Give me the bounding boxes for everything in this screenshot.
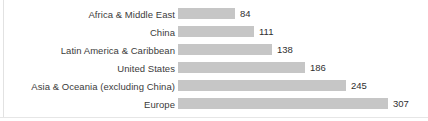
- bar-row: Africa & Middle East 84: [0, 8, 428, 26]
- category-label: Latin America & Caribbean: [61, 44, 175, 57]
- bar-value-label: 186: [310, 62, 326, 75]
- category-label: Europe: [144, 98, 175, 111]
- bar-track: 84: [178, 8, 235, 21]
- bar-value-label: 138: [277, 44, 293, 57]
- bar-fill: [178, 44, 272, 55]
- bar-track: 245: [178, 80, 346, 93]
- bar-value-label: 245: [351, 80, 367, 93]
- category-label: China: [150, 26, 175, 39]
- bar-value-label: 111: [259, 26, 273, 39]
- bar-fill: [178, 26, 254, 37]
- bar-chart: Africa & Middle East 84 China 111 Latin …: [0, 0, 428, 121]
- bar-track: 138: [178, 44, 272, 57]
- bottom-frame-rule: [0, 117, 428, 118]
- bar-value-label: 84: [240, 8, 251, 21]
- bar-fill: [178, 98, 388, 109]
- bar-row: China 111: [0, 26, 428, 44]
- bar-fill: [178, 62, 305, 73]
- bar-row: Europe 307: [0, 98, 428, 116]
- category-label: United States: [117, 62, 175, 75]
- category-label: Asia & Oceania (excluding China): [31, 80, 175, 93]
- bar-track: 307: [178, 98, 388, 111]
- bar-fill: [178, 80, 346, 91]
- bar-value-label: 307: [393, 98, 409, 111]
- bar-track: 186: [178, 62, 305, 75]
- plot-area: Africa & Middle East 84 China 111 Latin …: [0, 8, 428, 116]
- bar-row: United States 186: [0, 62, 428, 80]
- bar-fill: [178, 8, 235, 19]
- category-label: Africa & Middle East: [88, 8, 175, 21]
- bar-row: Latin America & Caribbean 138: [0, 44, 428, 62]
- bar-track: 111: [178, 26, 254, 39]
- bar-row: Asia & Oceania (excluding China) 245: [0, 80, 428, 98]
